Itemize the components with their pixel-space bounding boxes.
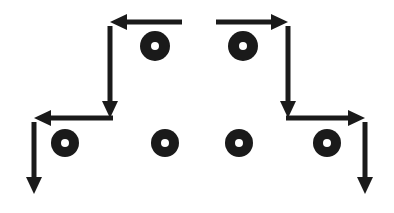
- ring-bottom-3: [225, 129, 253, 157]
- figure-background: [0, 0, 394, 213]
- ring-bottom-1-hole: [61, 139, 69, 147]
- ring-top-right-hole: [239, 42, 247, 50]
- ring-bottom-4-hole: [323, 139, 331, 147]
- ring-bottom-3-hole: [235, 139, 243, 147]
- ring-bottom-4: [313, 129, 341, 157]
- ring-top-left: [140, 31, 170, 61]
- ring-bottom-1: [51, 129, 79, 157]
- figure-canvas: [0, 0, 394, 213]
- ring-bottom-2-hole: [161, 139, 169, 147]
- diagram-svg: [0, 0, 394, 213]
- ring-top-right: [228, 31, 258, 61]
- ring-top-left-hole: [151, 42, 159, 50]
- ring-bottom-2: [151, 129, 179, 157]
